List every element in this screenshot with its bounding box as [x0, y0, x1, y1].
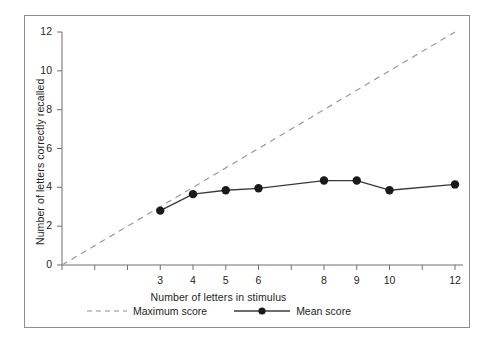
x-axis-title: Number of letters in stimulus — [0, 291, 465, 303]
x-tick-label: 10 — [379, 274, 401, 286]
x-tick-label: 8 — [313, 274, 335, 286]
y-tick-label: 4 — [32, 180, 52, 192]
series-mean-score — [160, 181, 455, 211]
dashed-line-swatch — [86, 305, 128, 317]
solid-line-dot-swatch — [233, 305, 291, 317]
y-axis-ticks — [57, 32, 62, 265]
y-tick-label: 10 — [32, 64, 52, 76]
x-tick-label: 12 — [444, 274, 466, 286]
legend-label-maximum-score: Maximum score — [133, 305, 207, 317]
chart-legend: Maximum score Mean score — [0, 305, 465, 317]
x-tick-label: 4 — [182, 274, 204, 286]
x-tick-label: 6 — [248, 274, 270, 286]
y-tick-label: 0 — [32, 258, 52, 270]
legend-item-mean-score: Mean score — [233, 305, 351, 317]
x-axis-ticks — [62, 265, 455, 270]
x-tick-label: 9 — [346, 274, 368, 286]
y-tick-label: 6 — [32, 142, 52, 154]
legend-item-maximum-score: Maximum score — [86, 305, 207, 317]
y-tick-label: 2 — [32, 219, 52, 231]
x-tick-label: 3 — [149, 274, 171, 286]
legend-label-mean-score: Mean score — [296, 305, 351, 317]
x-tick-label: 5 — [215, 274, 237, 286]
y-tick-label: 12 — [32, 25, 52, 37]
y-tick-label: 8 — [32, 103, 52, 115]
series-maximum-score — [62, 32, 455, 265]
figure-container: Number of letters correctly recalled Num… — [0, 0, 493, 347]
